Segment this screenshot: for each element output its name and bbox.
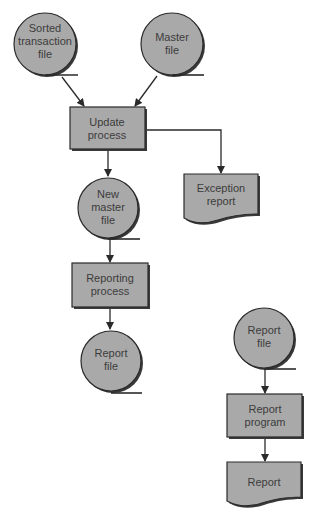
node-label: program [245,416,286,428]
node-label: report [207,195,236,207]
node-report: Report [227,462,303,508]
node-label: file [165,44,179,56]
node-label: process [91,285,130,297]
node-label: master [91,201,125,213]
node-label: Report [94,347,127,359]
edge-master-to-update [135,76,157,106]
node-label: Reporting [86,272,134,284]
process-box-icon [70,107,145,149]
edge-sorted-transaction-to-update [62,77,84,106]
node-label: Report [247,476,280,488]
node-label: Master [155,31,189,43]
node-label: process [88,129,127,141]
node-label: Report [248,403,281,415]
node-label: file [38,48,52,60]
node-sorted-transaction-file: Sorted transaction file [14,13,78,77]
edge-update-to-exception-report [146,130,221,173]
node-exception-report: Exception report [184,174,260,225]
node-label: transaction [18,35,72,47]
node-reporting-process: Reporting process [72,263,150,309]
node-update-process: Update process [70,107,147,151]
node-label: Report [247,324,280,336]
node-label: New [97,188,119,200]
node-label: file [104,360,118,372]
node-master-file: Master file [141,13,205,77]
node-label: Sorted [29,22,61,34]
node-label: Update [89,116,124,128]
node-label: Exception [197,182,245,194]
node-label: file [257,337,271,349]
node-new-master-file: New master file [78,178,140,240]
flowchart-diagram: Sorted transaction file Master file Upda… [0,0,315,520]
node-report-file-right: Report file [234,308,296,370]
node-label: file [101,214,115,226]
node-report-file-left: Report file [81,331,143,393]
node-report-program: Report program [227,394,304,439]
